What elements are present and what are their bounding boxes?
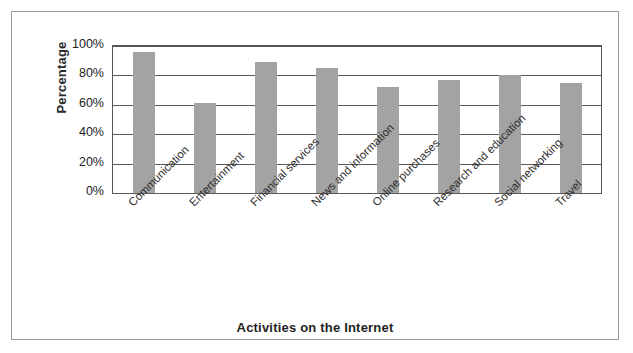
chart-page: Percentage 100%80%60%40%20%0% Communicat… — [0, 0, 633, 353]
y-axis-tick-label: 40% — [48, 125, 104, 139]
figure-frame: Percentage 100%80%60%40%20%0% Communicat… — [11, 11, 619, 340]
y-axis-tick-label: 0% — [48, 184, 104, 198]
y-axis-tick-label: 20% — [48, 155, 104, 169]
y-axis-tick-label: 60% — [48, 96, 104, 110]
y-axis-tick-label: 100% — [48, 37, 104, 51]
bar — [133, 52, 155, 193]
y-axis-tick-label: 80% — [48, 66, 104, 80]
bar — [560, 83, 582, 193]
gridline — [113, 193, 601, 194]
x-axis-title: Activities on the Internet — [12, 320, 618, 335]
